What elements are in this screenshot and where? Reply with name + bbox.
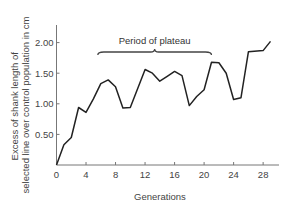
y-tick-label: 1.00	[35, 98, 54, 109]
line-chart: 0.501.001.502.00 0481216202428 Period of…	[0, 0, 287, 213]
x-axis: 0481216202428	[54, 162, 279, 180]
x-tick-label: 20	[199, 169, 210, 180]
plateau-brace	[98, 49, 212, 55]
y-axis-title-line-2: selected line over control population in…	[20, 16, 31, 193]
y-tick-label: 1.50	[35, 68, 54, 79]
x-tick-label: 4	[83, 169, 88, 180]
plateau-label: Period of plateau	[119, 35, 191, 46]
plateau-annotation: Period of plateau	[98, 35, 212, 55]
y-axis-title-line-1: Excess of shank length of	[9, 52, 20, 161]
x-tick-label: 16	[169, 169, 180, 180]
x-tick-label: 12	[140, 169, 151, 180]
x-tick-label: 0	[54, 169, 59, 180]
y-axis: 0.501.001.502.00	[35, 25, 60, 165]
x-axis-title: Generations	[134, 191, 186, 202]
x-tick-label: 28	[258, 169, 269, 180]
y-tick-label: 2.00	[35, 37, 54, 48]
y-tick-label: 0.50	[35, 129, 54, 140]
y-axis-title: Excess of shank length of selected line …	[9, 16, 31, 193]
x-tick-label: 8	[113, 169, 118, 180]
x-tick-label: 24	[228, 169, 239, 180]
data-line	[57, 41, 271, 165]
